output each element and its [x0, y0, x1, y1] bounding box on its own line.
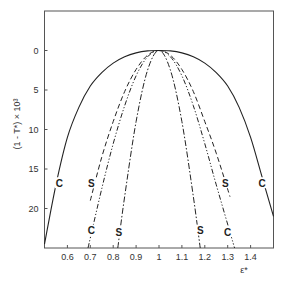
- curve-labels: CSCSSCSC: [55, 177, 267, 237]
- y-axis-title: (1 - T*) × 10³: [12, 98, 22, 149]
- y-tick-label: 15: [28, 164, 38, 174]
- x-tick-label: 1: [156, 252, 161, 262]
- x-tick-label: 1.1: [176, 252, 189, 262]
- y-tick-label: 0: [33, 46, 38, 56]
- x-tick-label: 0.6: [61, 252, 74, 262]
- x-tick-label: 1.4: [244, 252, 257, 262]
- curve-label: C: [258, 178, 265, 189]
- x-axis-ticks: 0.60.70.80.911.11.21.31.4: [61, 245, 257, 262]
- x-axis-title: ε*: [240, 265, 248, 275]
- curve-label: C: [88, 225, 95, 236]
- plot-frame: [45, 11, 274, 248]
- y-tick-label: 10: [28, 125, 38, 135]
- curve-label: C: [224, 227, 231, 238]
- curve-label: S: [116, 227, 123, 238]
- y-tick-label: 5: [33, 85, 38, 95]
- curve-label: S: [197, 225, 204, 236]
- curve-dashed: [90, 51, 230, 201]
- curve-solid: [45, 51, 274, 245]
- curve-label: C: [56, 178, 63, 189]
- curve-dash-dot: [118, 51, 200, 249]
- x-tick-label: 0.9: [130, 252, 143, 262]
- curve-label: S: [88, 178, 95, 189]
- x-tick-label: 1.2: [199, 252, 212, 262]
- chart: 0.60.70.80.911.11.21.31.4 05101520 CSCSS…: [0, 0, 285, 281]
- x-tick-label: 0.8: [107, 252, 120, 262]
- curve-dash-dot-dot: [88, 51, 235, 249]
- curves: [45, 51, 274, 249]
- curve-label: S: [222, 178, 229, 189]
- plot-border: [45, 11, 274, 248]
- x-tick-label: 0.7: [84, 252, 97, 262]
- y-tick-label: 20: [28, 204, 38, 214]
- x-tick-label: 1.3: [221, 252, 234, 262]
